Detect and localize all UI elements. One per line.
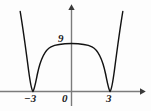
- x-tick-label-pos3: 3: [106, 93, 112, 104]
- x-tick-label-neg3: −3: [24, 93, 36, 104]
- graph-figure: 9 −3 0 3: [0, 0, 151, 111]
- origin-label: 0: [62, 93, 68, 104]
- plot-canvas: [0, 0, 151, 111]
- y-tick-label-9: 9: [58, 33, 64, 44]
